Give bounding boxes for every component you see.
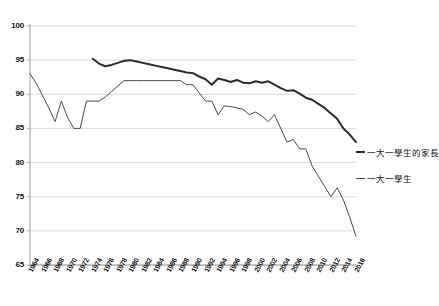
y-tick-label: 70 (2, 226, 24, 235)
y-tick-label: 100 (2, 21, 24, 30)
legend-item-1: 一大一學生 (356, 172, 412, 184)
y-tick-label: 85 (2, 123, 24, 132)
legend-swatch-icon (356, 151, 365, 153)
series-line-0 (93, 59, 356, 142)
y-tick-label: 90 (2, 89, 24, 98)
y-tick-label: 95 (2, 55, 24, 64)
legend-label: 一大一學生的家長 (367, 146, 439, 158)
y-tick-label: 65 (2, 260, 24, 269)
y-tick-label: 80 (2, 158, 24, 167)
series-lines (30, 59, 356, 237)
legend-item-0: 一大一學生的家長 (356, 146, 439, 158)
legend-label: 一大一學生 (367, 172, 412, 184)
y-tick-label: 75 (2, 192, 24, 201)
gridlines (30, 26, 356, 265)
legend-swatch-icon (356, 178, 365, 179)
